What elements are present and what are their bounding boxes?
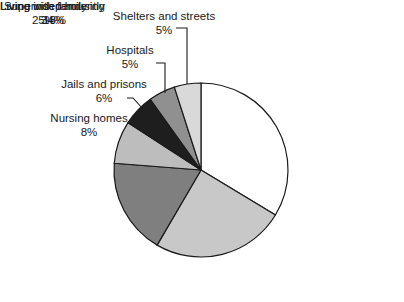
pie-label-value: 6% [34, 92, 174, 106]
pie-label-category: Living with family [0, 0, 87, 14]
pie-chart-svg [0, 0, 404, 302]
pie-label-jails-and-prisons: Jails and prisons 6% [34, 78, 174, 105]
pie-label-value: 8% [26, 126, 152, 140]
pie-label-category: Nursing homes [26, 112, 152, 126]
pie-chart-figure: Shelters and streets 5% Hospitals 5% Jai… [0, 0, 404, 302]
pie-label-category: Hospitals [78, 44, 182, 58]
pie-label-value: 5% [88, 24, 240, 38]
pie-label-value: 25% [0, 14, 87, 28]
pie-slices [114, 83, 288, 257]
pie-label-category: Shelters and streets [88, 10, 240, 24]
pie-label-shelters-and-streets: Shelters and streets 5% [88, 10, 240, 37]
pie-label-nursing-homes: Nursing homes 8% [26, 112, 152, 139]
pie-label-living-with-family: Living with family 25% [0, 0, 87, 27]
pie-label-hospitals: Hospitals 5% [78, 44, 182, 71]
pie-label-value: 5% [78, 58, 182, 72]
pie-label-category: Jails and prisons [34, 78, 174, 92]
